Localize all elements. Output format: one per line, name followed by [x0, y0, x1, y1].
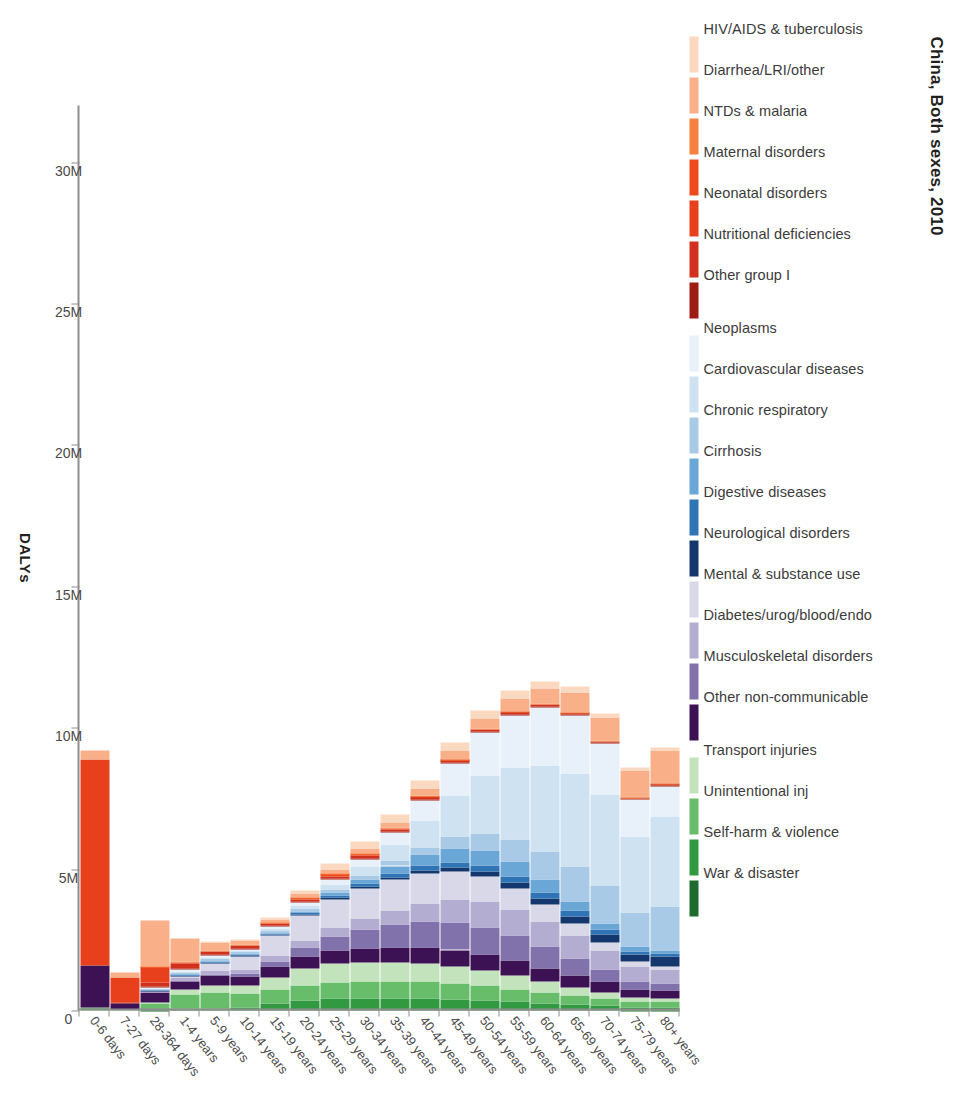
bar-segment[interactable]: [590, 794, 619, 886]
bar-segment[interactable]: [440, 922, 469, 949]
bar-segment[interactable]: [500, 975, 529, 988]
bar-segment[interactable]: [260, 989, 289, 1003]
bar-segment[interactable]: [650, 750, 679, 783]
bar-segment[interactable]: [470, 871, 499, 876]
bar-segment[interactable]: [230, 969, 259, 973]
bar-segment[interactable]: [230, 985, 259, 993]
bar-segment[interactable]: [500, 876, 529, 882]
bar-segment[interactable]: [410, 865, 439, 870]
bar-segment[interactable]: [230, 955, 259, 969]
bar-segment[interactable]: [620, 981, 649, 989]
bar-segment[interactable]: [530, 946, 559, 967]
bar-segment[interactable]: [500, 698, 529, 711]
bar-segment[interactable]: [620, 1001, 649, 1006]
bar-segment[interactable]: [320, 899, 349, 928]
bar-segment[interactable]: [440, 763, 469, 795]
bar-segment[interactable]: [440, 950, 469, 966]
bar-segment[interactable]: [260, 977, 289, 989]
bar-segment[interactable]: [500, 935, 529, 960]
bar-segment[interactable]: [650, 983, 679, 989]
bar-segment[interactable]: [380, 844, 409, 860]
bar-segment[interactable]: [560, 901, 589, 911]
bar-segment[interactable]: [110, 972, 139, 977]
bar-segment[interactable]: [200, 970, 229, 974]
bar-segment[interactable]: [290, 947, 319, 956]
bar-segment[interactable]: [320, 927, 349, 936]
bar-segment[interactable]: [380, 981, 409, 998]
bar-segment[interactable]: [440, 862, 469, 868]
bar-segment[interactable]: [560, 916, 589, 923]
bar-segment[interactable]: [620, 966, 649, 980]
bar-segment[interactable]: [500, 839, 529, 861]
bar-segment[interactable]: [440, 848, 469, 862]
bar-segment[interactable]: [140, 982, 169, 986]
bar-segment[interactable]: [110, 977, 139, 1002]
bar-segment[interactable]: [590, 950, 619, 969]
bar-segment[interactable]: [170, 938, 199, 961]
bar-segment[interactable]: [530, 688, 559, 704]
bar-segment[interactable]: [410, 963, 439, 981]
bar-segment[interactable]: [320, 950, 349, 964]
bar-segment[interactable]: [380, 822, 409, 828]
bar-segment[interactable]: [380, 998, 409, 1009]
bar-segment[interactable]: [590, 942, 619, 950]
bar-segment[interactable]: [500, 960, 529, 975]
bar-segment[interactable]: [260, 935, 289, 955]
bar-segment[interactable]: [620, 770, 649, 796]
bar-segment[interactable]: [590, 743, 619, 794]
bar-segment[interactable]: [200, 962, 229, 970]
bar-segment[interactable]: [290, 893, 319, 896]
bar-segment[interactable]: [290, 915, 319, 940]
bar-segment[interactable]: [530, 707, 559, 765]
bar-segment[interactable]: [350, 929, 379, 947]
bar-segment[interactable]: [440, 871, 469, 899]
bar-segment[interactable]: [290, 985, 319, 1000]
bar-segment[interactable]: [140, 920, 169, 966]
bar-segment[interactable]: [650, 1001, 679, 1007]
bar-segment[interactable]: [320, 936, 349, 950]
bar-segment[interactable]: [470, 865, 499, 871]
bar-segment[interactable]: [620, 997, 649, 1001]
bar-segment[interactable]: [620, 951, 649, 954]
bar-segment[interactable]: [350, 858, 379, 865]
bar-segment[interactable]: [590, 923, 619, 930]
bar-segment[interactable]: [380, 924, 409, 947]
bar-segment[interactable]: [170, 963, 199, 968]
bar-segment[interactable]: [440, 899, 469, 922]
bar-segment[interactable]: [380, 832, 409, 844]
bar-segment[interactable]: [590, 717, 619, 740]
bar-segment[interactable]: [650, 906, 679, 950]
bar-segment[interactable]: [350, 866, 379, 875]
bar-segment[interactable]: [530, 898, 559, 904]
bar-segment[interactable]: [410, 788, 439, 795]
bar-segment[interactable]: [380, 814, 409, 821]
bar-segment[interactable]: [530, 968, 559, 982]
bar-segment[interactable]: [560, 958, 589, 975]
bar-segment[interactable]: [380, 879, 409, 910]
bar-segment[interactable]: [590, 998, 619, 1005]
bar-segment[interactable]: [590, 981, 619, 992]
bar-segment[interactable]: [170, 994, 199, 1009]
bar-segment[interactable]: [500, 882, 529, 887]
bar-segment[interactable]: [320, 963, 349, 982]
bar-segment[interactable]: [590, 713, 619, 718]
bar-segment[interactable]: [470, 718, 499, 728]
bar-segment[interactable]: [620, 767, 649, 770]
bar-segment[interactable]: [440, 867, 469, 871]
bar-segment[interactable]: [560, 995, 589, 1004]
bar-segment[interactable]: [320, 863, 349, 869]
bar-segment[interactable]: [530, 992, 559, 1003]
bar-segment[interactable]: [320, 982, 349, 998]
bar-segment[interactable]: [650, 956, 679, 965]
bar-segment[interactable]: [620, 946, 649, 950]
bar-segment[interactable]: [380, 947, 409, 962]
bar-segment[interactable]: [350, 848, 379, 853]
bar-segment[interactable]: [410, 800, 439, 820]
bar-segment[interactable]: [560, 692, 589, 712]
bar-segment[interactable]: [80, 965, 109, 1007]
bar-segment[interactable]: [410, 903, 439, 922]
bar-segment[interactable]: [470, 876, 499, 901]
bar-segment[interactable]: [380, 962, 409, 981]
bar-segment[interactable]: [650, 816, 679, 905]
bar-segment[interactable]: [530, 981, 559, 992]
